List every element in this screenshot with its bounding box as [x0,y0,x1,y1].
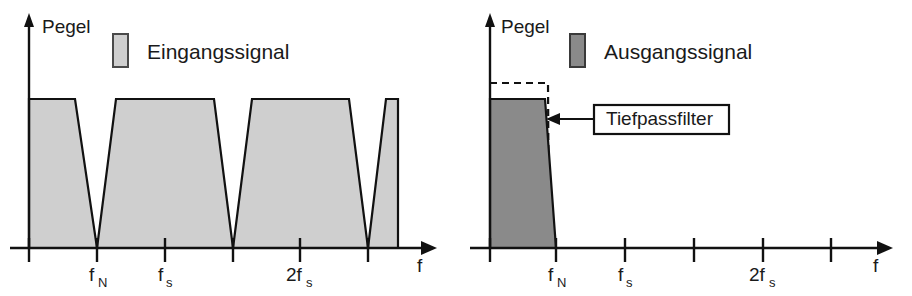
chart-panel-input-spectrum: Pegel f f N f s 2f s Eingangssignal [0,0,456,296]
tick-label-sub: s [769,275,776,290]
y-axis-arrowhead [485,13,495,27]
tick-label-main: f [618,264,624,285]
legend-input-signal: Eingangssignal [113,34,289,67]
x-tick-label-fn: f N [548,264,566,290]
tick-label-main: 2f [286,264,303,285]
x-tick-label-fn: f N [89,264,107,290]
x-tick-label-2fs: 2f s [286,264,313,290]
chart-panel-output-spectrum: Pegel f f N f s 2f s Ausgangssignal [456,0,912,296]
output-spectrum-svg: Pegel f f N f s 2f s Ausgangssignal [456,0,912,296]
legend-label: Eingangssignal [147,40,289,63]
legend-output-signal: Ausgangssignal [570,34,752,67]
x-axis-label: f [873,255,879,276]
figure-canvas: Pegel f f N f s 2f s Eingangssignal [0,0,912,296]
tick-label-sub: s [166,275,173,290]
tick-label-sub: s [306,275,313,290]
x-tick-label-fs: f s [618,264,633,290]
tick-label-sub: N [557,275,566,290]
callout-lowpass-filter: Tiefpassfilter [546,105,729,134]
input-signal-area [29,99,398,248]
legend-label: Ausgangssignal [604,40,752,63]
output-signal-area [490,99,556,248]
x-axis-arrowhead [421,241,437,255]
legend-swatch-icon [570,34,585,67]
x-axis-label: f [417,255,423,276]
tick-label-main: 2f [749,264,766,285]
y-axis-arrowhead [24,13,34,27]
callout-label: Tiefpassfilter [606,108,714,129]
tick-label-main: f [548,264,554,285]
tick-label-main: f [158,264,164,285]
input-spectrum-svg: Pegel f f N f s 2f s Eingangssignal [0,0,456,296]
tick-label-sub: s [626,275,633,290]
tick-label-main: f [89,264,95,285]
x-axis-arrowhead [877,241,893,255]
y-axis-label: Pegel [42,16,91,37]
tick-label-sub: N [98,275,107,290]
x-tick-label-2fs: 2f s [749,264,776,290]
x-tick-label-fs: f s [158,264,173,290]
legend-swatch-icon [113,34,128,67]
y-axis-label: Pegel [501,16,550,37]
